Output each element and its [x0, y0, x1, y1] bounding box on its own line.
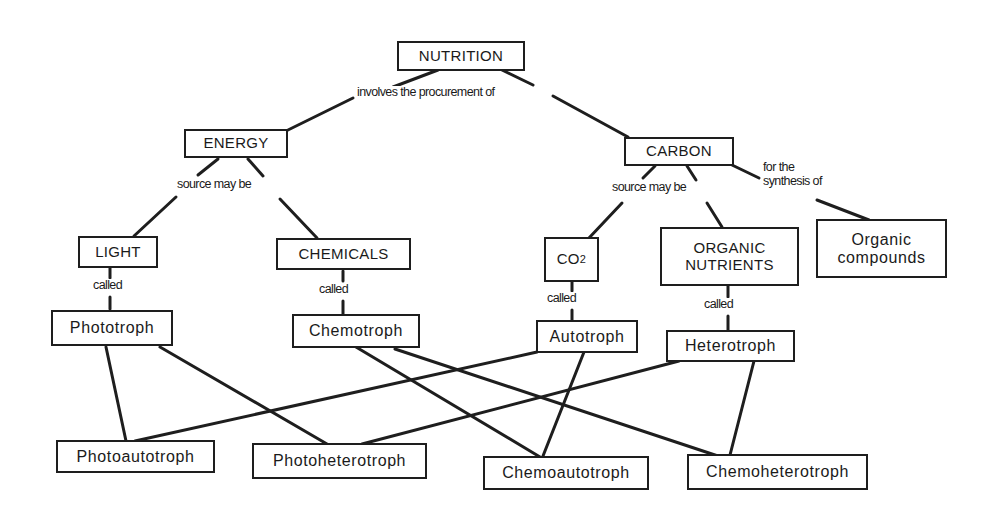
- edge-carbon-label-right: [687, 166, 696, 180]
- edge-carbon-synthesis-label: [732, 165, 759, 178]
- label-called-organic: called: [704, 298, 733, 312]
- node-photoautotroph: Photoautotroph: [56, 440, 215, 473]
- edge-phototroph-photoautotroph: [106, 347, 126, 441]
- label-carbon-source: source may be: [612, 181, 686, 195]
- nutrition-concept-map: NUTRITION involves the procurement of EN…: [0, 0, 994, 516]
- node-chemoheterotroph: Chemoheterotroph: [687, 454, 868, 490]
- label-synthesis-of: for the synthesis of: [763, 161, 822, 189]
- edge-carbon-label-left: [643, 166, 655, 178]
- node-organic-nutrients: ORGANIC NUTRIENTS: [660, 227, 799, 286]
- node-chemicals: CHEMICALS: [276, 238, 411, 270]
- edge-autotroph-photoautotroph: [135, 352, 537, 441]
- edge-label-chemicals: [280, 199, 317, 238]
- edge-heterotroph-photoheterotroph: [362, 361, 679, 444]
- co2-text: CO: [557, 251, 580, 268]
- node-heterotroph: Heterotroph: [666, 330, 795, 362]
- edge-nutrition-label-right: [502, 70, 533, 85]
- edge-heterotroph-chemoheterotroph: [730, 361, 754, 455]
- node-autotroph: Autotroph: [536, 320, 638, 353]
- edge-label-co2: [589, 203, 622, 238]
- label-energy-source: source may be: [177, 178, 251, 192]
- edge-chemotroph-chemoheterotroph: [395, 349, 718, 456]
- node-carbon: CARBON: [624, 137, 734, 166]
- label-involves-procurement: involves the procurement of: [357, 86, 494, 100]
- label-called-co2: called: [547, 292, 576, 306]
- node-organic-compounds: Organic compounds: [816, 219, 947, 278]
- edge-synthesis-organic-compounds: [817, 200, 869, 220]
- label-called-chemicals: called: [319, 283, 348, 297]
- edge-autotroph-chemoautotroph: [543, 352, 584, 456]
- edge-energy-label-right: [248, 159, 263, 176]
- node-chemoautotroph: Chemoautotroph: [483, 456, 649, 490]
- node-energy: ENERGY: [184, 129, 288, 158]
- edge-energy-label-left: [198, 159, 218, 175]
- label-called-light: called: [93, 279, 122, 293]
- edge-label-energy: [288, 98, 353, 130]
- node-phototroph: Phototroph: [51, 310, 173, 346]
- node-chemotroph: Chemotroph: [292, 314, 420, 348]
- node-co2: CO2: [544, 237, 599, 282]
- edge-label-organic-nutrients: [707, 203, 722, 227]
- edge-label-carbon: [553, 96, 628, 137]
- node-nutrition: NUTRITION: [397, 41, 525, 71]
- edge-chemotroph-chemoautotroph: [356, 347, 540, 457]
- node-photoheterotroph: Photoheterotroph: [252, 443, 427, 479]
- co2-subscript: 2: [580, 253, 586, 265]
- edge-label-light: [134, 197, 176, 236]
- node-light: LIGHT: [78, 236, 158, 268]
